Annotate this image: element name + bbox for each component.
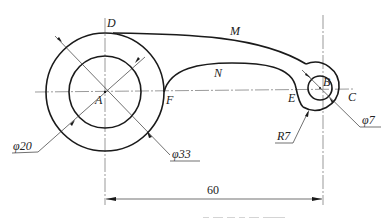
dim-arrow-left xyxy=(106,197,116,201)
curve-E-transition xyxy=(296,88,303,107)
phi33-label: φ33 xyxy=(172,147,191,161)
center-point-B xyxy=(319,87,321,89)
r7-leader xyxy=(293,112,308,143)
point-label-F: F xyxy=(165,93,174,107)
r7-arrow xyxy=(305,110,309,117)
r7-label: R7 xyxy=(276,129,291,143)
phi33-leader-diagonal xyxy=(55,36,170,155)
point-label-D: D xyxy=(106,16,116,30)
point-label-C: C xyxy=(348,90,357,104)
dim-arrow-right xyxy=(312,197,322,201)
phi7-arrow-top xyxy=(305,73,311,78)
phi33-arrow-top xyxy=(57,37,62,42)
phi20-label: φ20 xyxy=(13,139,32,153)
phi33-arrow-bottom xyxy=(147,131,152,138)
point-label-A: A xyxy=(94,93,103,107)
point-label-B: B xyxy=(323,75,331,89)
point-label-E: E xyxy=(287,91,296,105)
center-lines xyxy=(35,15,355,205)
point-label-M: M xyxy=(229,24,241,38)
dimension-60-label: 60 xyxy=(207,183,219,197)
phi7-label: φ7 xyxy=(362,113,376,127)
horizontal-centerline xyxy=(35,89,355,92)
cad-drawing: φ20 φ33 φ7 R7 60 D M N A F E B C xyxy=(0,0,389,218)
curve-N xyxy=(164,63,296,92)
center-point-A xyxy=(104,91,106,93)
point-label-N: N xyxy=(213,66,223,80)
cropped-caption xyxy=(203,208,313,216)
phi20-leader-diagonal xyxy=(38,57,145,152)
phi7-arrow-bottom xyxy=(329,97,334,103)
